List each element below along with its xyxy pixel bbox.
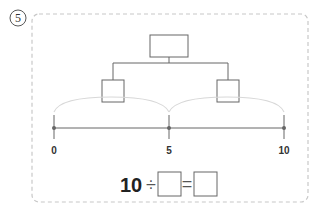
problem-number: 5 — [15, 11, 21, 25]
tick-label-10: 10 — [278, 145, 290, 156]
equation: 10 ÷ = — [120, 172, 217, 196]
tree-diagram — [102, 35, 239, 102]
equals-sign: = — [182, 174, 193, 194]
tick-label-0: 0 — [51, 145, 57, 156]
left-answer-box[interactable] — [102, 80, 124, 102]
point-5 — [167, 126, 171, 130]
right-answer-box[interactable] — [217, 80, 239, 102]
division-diagram: 5 0 5 10 10 ÷ = — [0, 0, 321, 213]
jump-arcs — [54, 97, 284, 112]
point-10 — [282, 126, 286, 130]
dividend: 10 — [120, 174, 142, 196]
number-line — [52, 115, 286, 139]
problem-number-badge: 5 — [10, 10, 26, 26]
tick-label-5: 5 — [166, 145, 172, 156]
quotient-answer-box[interactable] — [194, 172, 217, 196]
divide-sign: ÷ — [146, 175, 156, 195]
point-0 — [52, 126, 56, 130]
divisor-answer-box[interactable] — [158, 172, 181, 196]
top-answer-box[interactable] — [150, 35, 188, 57]
